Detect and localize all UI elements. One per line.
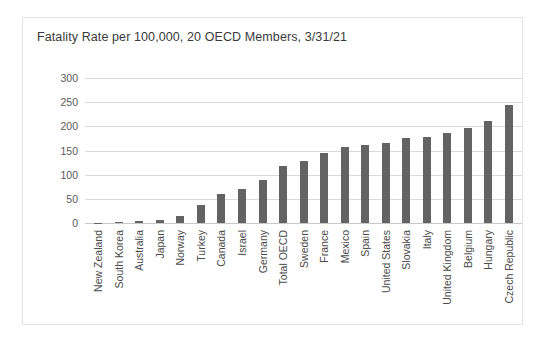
y-axis-tick-label: 200 [60,120,78,132]
bar-slot: Turkey [191,78,212,223]
bar [361,145,369,223]
bar [279,166,287,223]
bar [300,161,308,223]
chart-card: Fatality Rate per 100,000, 20 OECD Membe… [22,17,523,325]
y-axis-tick-label: 250 [60,96,78,108]
bar-slot: Israel [232,78,253,223]
bar-slot: Belgium [458,78,479,223]
bar [217,194,225,223]
bar-slot: Germany [252,78,273,223]
x-axis-tick-label: Canada [216,230,227,267]
plot-area: 300250200150100500 New ZealandSouth Kore… [85,78,522,223]
chart-title: Fatality Rate per 100,000, 20 OECD Membe… [37,30,347,44]
bar-slot: New Zealand [88,78,109,223]
x-axis-tick-label: South Korea [114,230,125,288]
x-axis-tick-label: United Kingdom [442,230,453,305]
bar [443,133,451,223]
x-axis-tick-label: Sweden [298,230,309,268]
bar-slot: Canada [211,78,232,223]
bar [320,153,328,223]
x-axis-tick-label: Japan [155,230,166,259]
bar [259,180,267,224]
y-axis-tick-label: 50 [66,193,78,205]
bar [484,121,492,223]
bar-series: New ZealandSouth KoreaAustraliaJapanNorw… [85,78,522,223]
x-axis-tick-label: New Zealand [93,230,104,292]
x-axis-tick-label: Hungary [483,230,494,270]
x-axis-tick-label: Slovakia [401,230,412,270]
x-axis-tick-label: Total OECD [278,230,289,285]
bar-slot: Mexico [334,78,355,223]
y-axis-tick-label: 100 [60,169,78,181]
bar [135,221,143,223]
bar [382,143,390,223]
bar [94,223,102,224]
x-axis-tick-label: Spain [360,230,371,257]
axis-baseline [85,223,522,224]
bar-slot: Slovakia [396,78,417,223]
x-axis-tick-label: Norway [175,230,186,266]
x-axis-tick-label: France [319,230,330,263]
bar-slot: Australia [129,78,150,223]
x-axis-tick-label: Czech Republic [504,230,515,304]
x-axis-tick-label: Belgium [463,230,474,268]
bar [402,138,410,223]
y-axis-tick-label: 300 [60,72,78,84]
x-axis-tick-label: Australia [134,230,145,271]
y-axis-tick-label: 0 [72,217,78,229]
bar [197,205,205,223]
bar-slot: United States [375,78,396,223]
bar-slot: Hungary [478,78,499,223]
bar [423,137,431,223]
bar-slot: France [314,78,335,223]
x-axis-tick-label: Italy [422,230,433,249]
x-axis-tick-label: Germany [257,230,268,273]
bar-slot: Spain [355,78,376,223]
bar-slot: Japan [150,78,171,223]
bar [505,105,513,223]
bar [115,222,123,223]
bar [341,147,349,223]
bar [238,189,246,223]
x-axis-tick-label: Turkey [196,230,207,262]
bar-slot: Sweden [293,78,314,223]
x-axis-tick-label: United States [380,230,391,293]
bar-slot: Czech Republic [499,78,520,223]
y-axis-tick-label: 150 [60,145,78,157]
bar-slot: Norway [170,78,191,223]
bar-slot: Italy [417,78,438,223]
bar [464,128,472,223]
bar-slot: Total OECD [273,78,294,223]
x-axis-tick-label: Mexico [339,230,350,263]
bar-slot: South Korea [109,78,130,223]
bar [176,216,184,223]
bar [156,220,164,223]
x-axis-tick-label: Israel [237,230,248,256]
bar-slot: United Kingdom [437,78,458,223]
